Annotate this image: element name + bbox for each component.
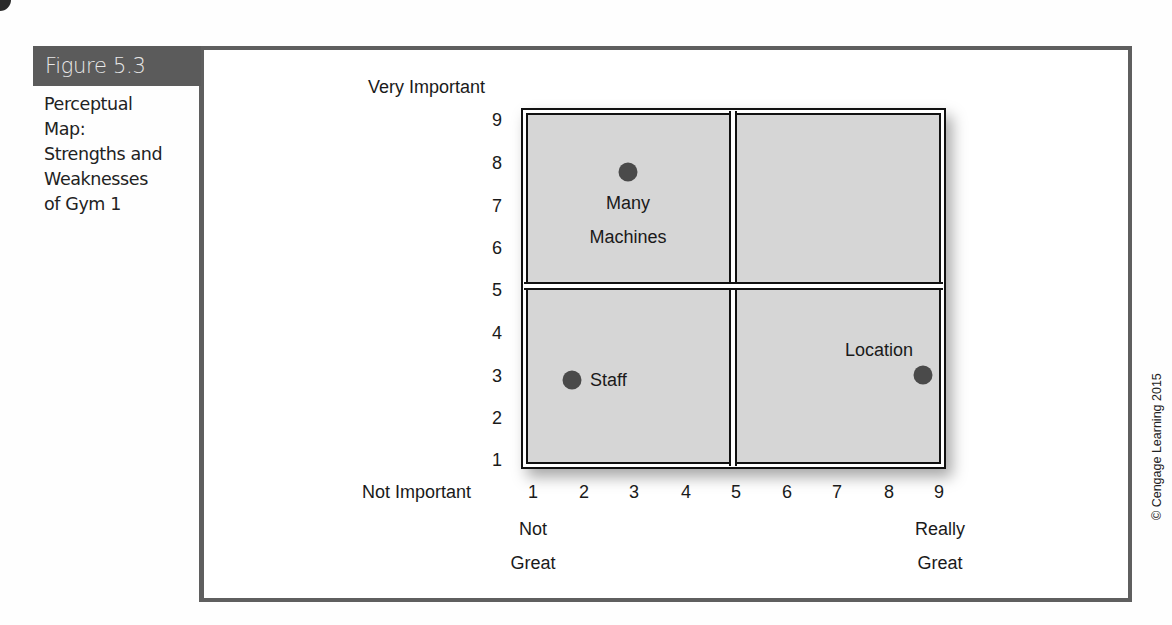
x-tick: 7 (832, 482, 842, 503)
x-axis-left-label: Not Great (510, 512, 555, 580)
label-line: Really (915, 512, 965, 546)
figure-caption: Perceptual Map: Strengths and Weaknesses… (33, 92, 198, 217)
y-tick: 8 (462, 153, 502, 174)
data-point-location (914, 366, 933, 385)
label-line: Machines (578, 220, 678, 254)
point-label-many-machines: Many Machines (578, 186, 678, 254)
x-axis-right-label: Really Great (915, 512, 965, 580)
page-edge-artifact (0, 0, 11, 11)
y-tick: 1 (462, 450, 502, 471)
y-tick: 7 (462, 196, 502, 217)
x-tick: 4 (681, 482, 691, 503)
y-tick: 6 (462, 238, 502, 259)
label-line: Many (578, 186, 678, 220)
x-tick: 5 (731, 482, 741, 503)
label-line: Not (510, 512, 555, 546)
y-axis-bottom-label: Not Important (362, 482, 471, 503)
horizontal-divider (524, 282, 943, 290)
x-tick: 9 (934, 482, 944, 503)
y-tick: 3 (462, 366, 502, 387)
caption-line: Strengths and (44, 142, 198, 167)
y-axis-top-label: Very Important (368, 77, 485, 98)
label-line: Great (510, 546, 555, 580)
caption-line: Perceptual (44, 92, 198, 117)
x-tick: 3 (629, 482, 639, 503)
label-line: Great (915, 546, 965, 580)
y-tick: 4 (462, 323, 502, 344)
y-tick: 9 (462, 110, 502, 131)
caption-line: Weaknesses (44, 167, 198, 192)
perceptual-map-grid (521, 108, 946, 469)
y-tick: 5 (462, 280, 502, 301)
data-point-staff (563, 371, 582, 390)
caption-line: of Gym 1 (44, 192, 198, 217)
figure-number-tag: Figure 5.3 (33, 46, 201, 86)
x-tick: 8 (884, 482, 894, 503)
x-tick: 6 (782, 482, 792, 503)
data-point-many-machines (619, 163, 638, 182)
y-tick: 2 (462, 408, 502, 429)
point-label-location: Location (845, 333, 913, 367)
caption-line: Map: (44, 117, 198, 142)
point-label-staff: Staff (590, 363, 627, 397)
x-tick: 2 (579, 482, 589, 503)
copyright-notice: © Cengage Learning 2015 (1150, 373, 1164, 520)
x-tick: 1 (528, 482, 538, 503)
